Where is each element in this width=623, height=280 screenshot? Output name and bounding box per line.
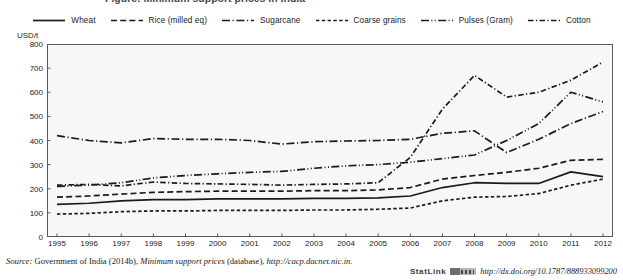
line-dash-dot-icon xyxy=(221,16,255,25)
source-database-title: Minimum support prices xyxy=(140,256,225,266)
x-tick-label: 2006 xyxy=(401,239,419,248)
x-axis-tick-labels: 1995199619971998199920002001200220032004… xyxy=(47,239,613,251)
x-tick-label: 2009 xyxy=(498,239,516,248)
chart-lines-svg xyxy=(47,44,613,237)
x-tick-label: 2010 xyxy=(530,239,548,248)
statlink-row[interactable]: StatLink http://dx.doi.org/10.1787/88893… xyxy=(410,267,617,276)
y-tick-label: 300 xyxy=(17,160,43,169)
x-tick-label: 2004 xyxy=(337,239,355,248)
y-tick-label: 200 xyxy=(17,184,43,193)
legend-item-coarse-grains[interactable]: Coarse grains xyxy=(315,16,406,25)
line-solid-icon xyxy=(32,16,66,25)
x-tick-label: 1996 xyxy=(80,239,98,248)
y-tick-label: 500 xyxy=(17,112,43,121)
clipped-title-strip: Figure: Minimum support prices in India xyxy=(0,0,623,7)
legend-item-wheat[interactable]: Wheat xyxy=(32,16,95,25)
legend-label: Coarse grains xyxy=(354,16,406,25)
source-text-before: Government of India (2014b), xyxy=(32,256,140,266)
x-tick-label: 2002 xyxy=(273,239,291,248)
legend-item-pulses-gram[interactable]: Pulses (Gram) xyxy=(420,16,513,25)
legend-label: Wheat xyxy=(71,16,95,25)
series-line-rice-milled-eq xyxy=(57,159,603,197)
series-line-wheat xyxy=(57,172,603,205)
line-short-dash-icon xyxy=(315,16,349,25)
statlink-barcode-icon xyxy=(450,268,476,275)
y-tick-label: 700 xyxy=(17,64,43,73)
figure-title: Figure: Minimum support prices in India xyxy=(105,0,305,4)
x-tick-label: 2007 xyxy=(434,239,452,248)
chart-legend: WheatRice (milled eq)SugarcaneCoarse gra… xyxy=(0,13,623,28)
x-tick-label: 2005 xyxy=(369,239,387,248)
legend-label: Rice (milled eq) xyxy=(149,16,207,25)
source-note: Source: Government of India (2014b), Min… xyxy=(6,256,352,266)
x-tick-label: 1999 xyxy=(177,239,195,248)
x-tick-label: 1998 xyxy=(144,239,162,248)
x-tick-label: 2012 xyxy=(594,239,612,248)
x-tick-label: 2008 xyxy=(466,239,484,248)
legend-label: Pulses (Gram) xyxy=(459,16,513,25)
figure-container: Figure: Minimum support prices in India … xyxy=(0,0,623,280)
line-long-dash-dot-icon xyxy=(527,16,561,25)
y-tick-label: 400 xyxy=(17,136,43,145)
statlink-doi-link[interactable]: http://dx.doi.org/10.1787/888933099200 xyxy=(480,267,617,276)
x-tick-label: 2011 xyxy=(562,239,579,248)
x-tick-label: 2000 xyxy=(209,239,227,248)
legend-label: Sugarcane xyxy=(260,16,301,25)
legend-label: Cotton xyxy=(566,16,591,25)
legend-item-cotton[interactable]: Cotton xyxy=(527,16,591,25)
plot-area xyxy=(47,44,613,237)
line-dashed-icon xyxy=(110,16,144,25)
y-axis-tick-labels: 8007006005004003002001000 xyxy=(14,44,43,237)
source-text-after: (database), xyxy=(225,256,267,266)
y-tick-label: 100 xyxy=(17,208,43,217)
statlink-label: StatLink xyxy=(410,267,446,276)
x-tick-label: 1995 xyxy=(48,239,66,248)
x-tick-label: 2003 xyxy=(305,239,323,248)
source-url: http://cacp.dacnet.nic.in. xyxy=(267,256,353,266)
line-dash-dot-dot-icon xyxy=(420,16,454,25)
series-line-pulses-gram xyxy=(57,92,603,186)
legend-item-sugarcane[interactable]: Sugarcane xyxy=(221,16,301,25)
x-tick-label: 1997 xyxy=(112,239,130,248)
y-tick-label: 0 xyxy=(17,233,43,242)
y-tick-label: 600 xyxy=(17,88,43,97)
source-label: Source: xyxy=(6,256,32,266)
x-tick-label: 2001 xyxy=(241,239,259,248)
series-line-cotton xyxy=(57,62,603,186)
y-tick-label: 800 xyxy=(17,40,43,49)
legend-item-rice-milled-eq[interactable]: Rice (milled eq) xyxy=(110,16,207,25)
